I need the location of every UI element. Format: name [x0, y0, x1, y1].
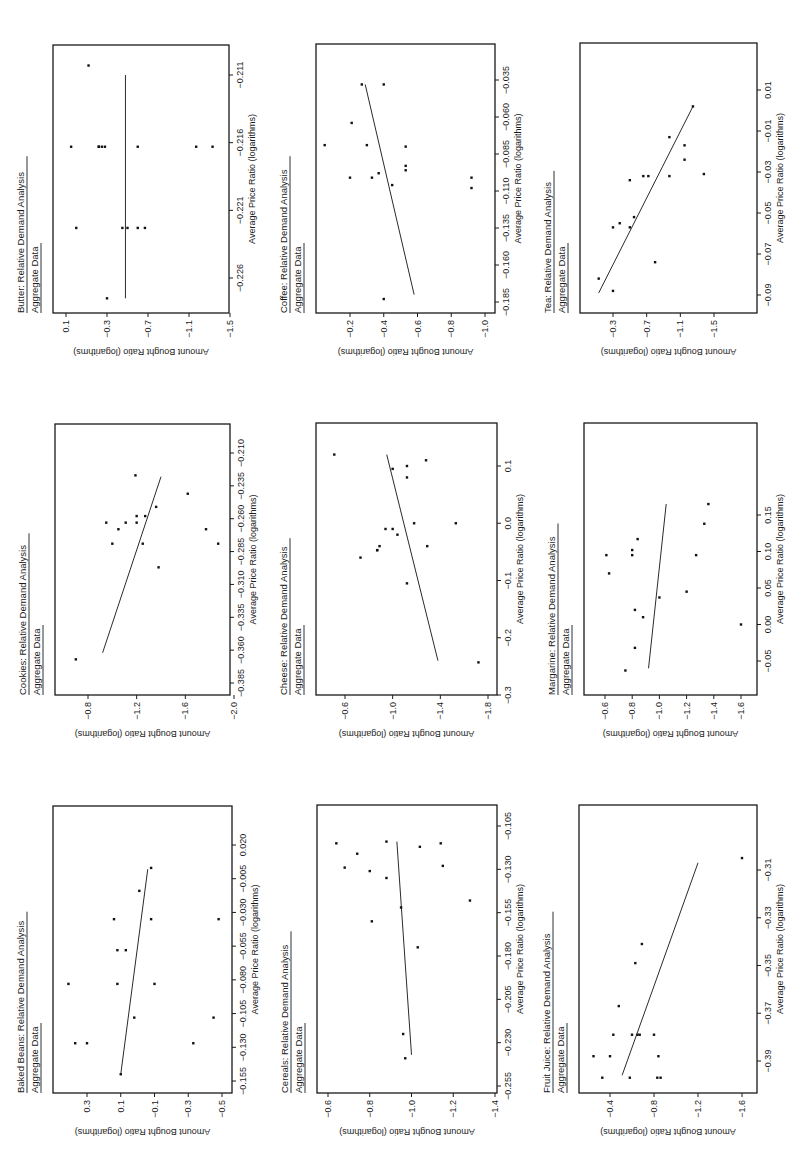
- data-point: [647, 175, 649, 177]
- x-tick-label: −0.226: [235, 264, 245, 292]
- data-point: [120, 1073, 122, 1075]
- data-point: [608, 572, 610, 574]
- y-tick-label: −0.5: [217, 1100, 227, 1118]
- x-tick-label: −0.09: [763, 284, 773, 307]
- x-tick-label: −0.33: [763, 906, 773, 929]
- data-point: [653, 1034, 655, 1036]
- y-tick-label: −1.4: [709, 702, 719, 720]
- data-point: [74, 1042, 76, 1044]
- y-tick-label: −0.6: [600, 702, 610, 720]
- x-tick-label: −0.05: [763, 202, 773, 225]
- y-axis-label: Amount Bought Ratio (logarithms): [338, 347, 474, 357]
- x-axis-label: Average Price Ratio (logarithms): [247, 114, 257, 244]
- data-point: [455, 522, 457, 524]
- data-point: [597, 277, 599, 279]
- x-tick-label: 0.05: [763, 579, 773, 597]
- data-point: [404, 169, 406, 171]
- data-point: [376, 549, 378, 551]
- x-tick-label: −0.285: [236, 538, 246, 566]
- regression-line: [103, 477, 161, 653]
- x-tick-label: 0.10: [763, 543, 773, 561]
- y-axis-label: Amount Bought Ratio (logarithms): [75, 729, 211, 739]
- data-point: [125, 521, 127, 523]
- y-tick-label: −1.4: [435, 702, 445, 720]
- data-point: [192, 1042, 194, 1044]
- data-point: [631, 554, 633, 556]
- y-tick-label: −0.7: [642, 320, 652, 338]
- x-tick-label: −0.205: [503, 985, 513, 1013]
- x-tick-label: −0.05: [763, 650, 773, 673]
- data-point: [153, 983, 155, 985]
- x-tick-label: −0.185: [501, 288, 511, 316]
- data-point: [335, 842, 337, 844]
- data-point: [366, 144, 368, 146]
- data-point: [217, 542, 219, 544]
- data-point: [67, 983, 69, 985]
- x-tick-label: −0.230: [503, 1029, 513, 1057]
- data-point: [633, 216, 635, 218]
- chart-panel-fruit-juice: −0.4−0.8−1.2−1.6Amount Bought Ratio (log…: [541, 805, 785, 1137]
- x-tick-label: 0.020: [238, 834, 248, 857]
- y-axis-label: Amount Bought Ratio (logarithms): [339, 729, 475, 739]
- x-tick-label: −0.060: [501, 103, 511, 131]
- data-point: [624, 669, 626, 671]
- x-tick-label: −0.221: [235, 196, 245, 224]
- x-axis-label: Average Price Ratio (logarithms): [775, 113, 785, 243]
- y-tick-label: −1.0: [407, 1100, 417, 1118]
- data-point: [134, 474, 136, 476]
- data-point: [741, 857, 743, 859]
- data-point: [703, 173, 705, 175]
- data-point: [629, 179, 631, 181]
- data-point: [117, 528, 119, 530]
- y-tick-label: −0.1: [150, 1100, 160, 1118]
- regression-line: [599, 106, 693, 293]
- regression-line: [387, 455, 438, 661]
- y-tick-label: −0.6: [413, 320, 423, 338]
- data-point: [601, 1077, 603, 1079]
- data-point: [425, 459, 427, 461]
- y-tick-label: −0.8: [83, 702, 93, 720]
- data-point: [212, 1016, 214, 1018]
- x-tick-label: −0.155: [238, 1067, 248, 1095]
- data-point: [137, 227, 139, 229]
- data-point: [592, 1055, 594, 1057]
- data-point: [406, 465, 408, 467]
- x-tick-label: −0.155: [503, 899, 513, 927]
- y-tick-label: −2.0: [229, 702, 239, 720]
- data-point: [333, 453, 335, 455]
- data-point: [144, 227, 146, 229]
- data-point: [657, 1055, 659, 1057]
- y-tick-label: −1.6: [736, 702, 746, 720]
- x-tick-label: −0.39: [763, 1050, 773, 1073]
- chart-panel-coffee: −0.2−0.4−0.6−0.8−1.0Amount Bought Ratio …: [278, 44, 523, 357]
- x-tick-label: −0.35: [763, 954, 773, 977]
- x-tick-label: 0.0: [503, 517, 513, 530]
- data-point: [137, 146, 139, 148]
- chart-grid: 0.1−0.3−0.7−1.1−1.5Amount Bought Ratio (…: [0, 0, 804, 1158]
- x-tick-label: −0.210: [236, 439, 246, 467]
- chart-subtitle: Aggregate Data: [293, 1026, 304, 1093]
- data-point: [631, 549, 633, 551]
- data-point: [133, 1016, 135, 1018]
- data-point: [740, 623, 742, 625]
- y-tick-label: −1.1: [184, 320, 194, 338]
- data-point: [470, 187, 472, 189]
- y-tick-label: −1.8: [483, 702, 493, 720]
- data-point: [692, 105, 694, 107]
- data-point: [187, 493, 189, 495]
- data-point: [113, 918, 115, 920]
- data-point: [631, 1034, 633, 1036]
- data-point: [442, 865, 444, 867]
- x-tick-label: −0.216: [235, 129, 245, 157]
- data-point: [612, 1034, 614, 1036]
- data-point: [344, 866, 346, 868]
- chart-panel-cookies: −0.8−1.2−1.6−2.0Amount Bought Ratio (log…: [17, 424, 258, 739]
- x-axis-label: Average Price Ratio (logarithms): [775, 494, 785, 624]
- x-tick-label: 0.00: [763, 616, 773, 634]
- y-axis-label: Amount Bought Ratio (logarithms): [601, 347, 737, 357]
- data-point: [404, 165, 406, 167]
- data-point: [323, 144, 325, 146]
- y-tick-label: −1.0: [480, 320, 490, 338]
- chart-title: Butter: Relative Demand Analysis: [15, 172, 26, 313]
- data-point: [609, 1055, 611, 1057]
